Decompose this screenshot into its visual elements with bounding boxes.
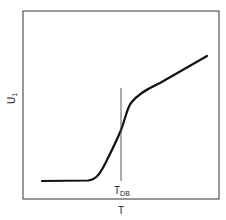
chart: TDB T U1: [0, 0, 226, 220]
svg-text:U1: U1: [6, 93, 18, 104]
tdb-label: TDB: [114, 185, 130, 197]
x-axis-label: T: [118, 205, 124, 216]
data-curve: [42, 56, 207, 181]
y-axis-label: U1: [6, 93, 18, 104]
